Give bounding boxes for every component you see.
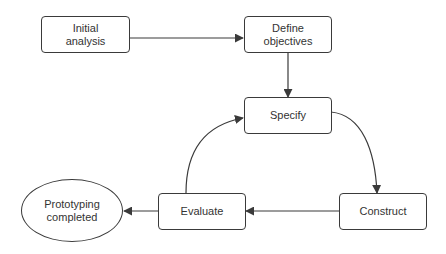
- node-initial-analysis: Initial analysis: [41, 16, 130, 53]
- node-label: Initial analysis: [66, 22, 106, 48]
- node-label: Evaluate: [181, 205, 224, 218]
- node-specify: Specify: [244, 97, 332, 134]
- node-construct: Construct: [339, 193, 427, 230]
- edge-specify-to-construct: [331, 112, 377, 193]
- node-define-objectives: Define objectives: [244, 16, 332, 53]
- edge-evaluate-to-specify: [186, 118, 243, 193]
- node-label: Prototyping completed: [44, 198, 100, 224]
- node-label: Specify: [270, 109, 306, 122]
- node-label: Define objectives: [264, 22, 313, 48]
- node-label: Construct: [359, 205, 406, 218]
- node-prototyping-completed: Prototyping completed: [21, 179, 123, 242]
- node-evaluate: Evaluate: [158, 193, 246, 230]
